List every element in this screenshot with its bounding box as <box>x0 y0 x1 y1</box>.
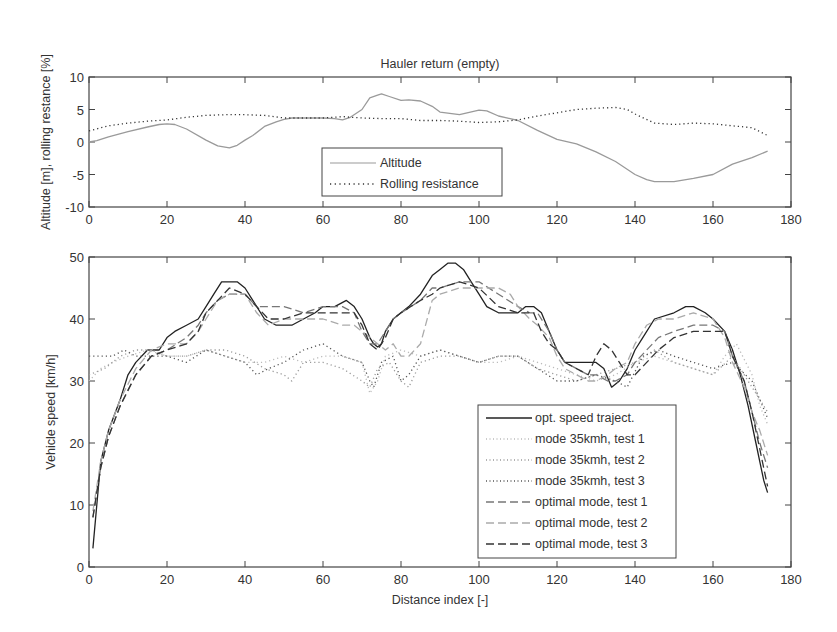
x-tick-label: 120 <box>546 212 568 227</box>
y-tick-label: -5 <box>72 168 84 183</box>
series-line-2 <box>89 350 768 412</box>
y-tick-label: 50 <box>70 250 84 265</box>
x-tick-label: 180 <box>780 212 802 227</box>
x-tick-label: 80 <box>394 212 408 227</box>
chart-title: Hauler return (empty) <box>381 57 500 71</box>
x-tick-label: 140 <box>624 212 646 227</box>
legend-label-optimal-test3: optimal mode, test 3 <box>535 537 648 551</box>
bottom-plot-axes-box <box>89 257 791 567</box>
y-tick-label: 30 <box>70 374 84 389</box>
top-legend: Altitude Rolling resistance <box>322 148 502 196</box>
y-tick-label: -10 <box>65 200 84 215</box>
x-tick-label: 80 <box>394 572 408 587</box>
x-tick-label: 120 <box>546 572 568 587</box>
legend-label-mode35-test1: mode 35kmh, test 1 <box>535 432 645 446</box>
x-tick-label: 100 <box>468 572 490 587</box>
y-tick-label: 40 <box>70 312 84 327</box>
y-tick-label: 10 <box>70 498 84 513</box>
legend-label-mode35-test3: mode 35kmh, test 3 <box>535 474 645 488</box>
y-tick-label: 0 <box>77 560 84 575</box>
bottom-y-axis-label: Vehicle speed [km/h] <box>44 354 58 469</box>
top-plot: Hauler return (empty) 020406080100120140… <box>39 54 802 230</box>
y-tick-label: 20 <box>70 436 84 451</box>
x-tick-label: 180 <box>780 572 802 587</box>
x-tick-label: 40 <box>238 212 252 227</box>
legend-label-optimal-test2: optimal mode, test 2 <box>535 516 648 530</box>
figure: Hauler return (empty) 020406080100120140… <box>0 0 837 632</box>
y-tick-label: 0 <box>77 135 84 150</box>
x-tick-label: 100 <box>468 212 490 227</box>
x-tick-label: 160 <box>702 572 724 587</box>
legend-label-opt-speed: opt. speed traject. <box>535 411 634 425</box>
x-tick-label: 20 <box>160 572 174 587</box>
y-tick-label: 10 <box>70 70 84 85</box>
legend-label-altitude: Altitude <box>380 156 422 170</box>
bottom-legend: opt. speed traject. mode 35kmh, test 1 m… <box>478 405 676 558</box>
x-tick-label: 140 <box>624 572 646 587</box>
x-tick-label: 60 <box>316 212 330 227</box>
x-tick-label: 40 <box>238 572 252 587</box>
x-tick-label: 160 <box>702 212 724 227</box>
x-tick-label: 0 <box>85 212 92 227</box>
legend-label-rolling-resistance: Rolling resistance <box>380 177 479 191</box>
top-y-axis-label: Altitude [m], rolling restance [%] <box>39 54 53 230</box>
x-tick-label: 20 <box>160 212 174 227</box>
bottom-x-axis-label: Distance index [-] <box>392 593 489 607</box>
legend-label-optimal-test1: optimal mode, test 1 <box>535 495 648 509</box>
bottom-plot: 02040608010012014016018001020304050 Dist… <box>44 250 802 607</box>
bottom-axis-ticks: 02040608010012014016018001020304050 <box>70 250 802 587</box>
x-tick-label: 60 <box>316 572 330 587</box>
legend-label-mode35-test2: mode 35kmh, test 2 <box>535 453 645 467</box>
x-tick-label: 0 <box>85 572 92 587</box>
y-tick-label: 5 <box>77 103 84 118</box>
